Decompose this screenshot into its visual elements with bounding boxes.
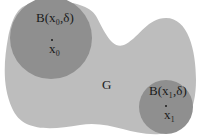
region-label: G <box>102 77 111 92</box>
point-x1-label: x₁ <box>164 107 175 122</box>
point-x0-label: x₀ <box>49 41 60 56</box>
diagram-canvas: B(x₀,δ) x₀ G B(x₁,δ) x₁ <box>0 0 199 137</box>
ball1-label: B(x₁,δ) <box>149 83 187 98</box>
ball0-label: B(x₀,δ) <box>36 10 74 25</box>
